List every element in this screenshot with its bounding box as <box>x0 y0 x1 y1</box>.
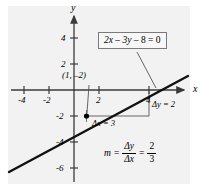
point-leader-line <box>87 85 89 113</box>
graph-figure: x y -4 -2 2 4 4 2 -2 -4 -6 2x – 3y – 8 =… <box>0 0 206 191</box>
slope-fraction-value: 2 3 <box>147 142 156 165</box>
x-tick-label-4: 4 <box>146 96 151 105</box>
equation-operator-2: – <box>134 35 139 45</box>
y-tick-label-4: 4 <box>61 34 66 43</box>
slope-value-numerator: 2 <box>147 142 156 152</box>
delta-y-label: Δy = 2 <box>152 100 175 109</box>
x-tick-label-2: 2 <box>96 96 101 105</box>
y-axis-label: y <box>71 3 75 13</box>
y-tick-label--6: -6 <box>56 164 64 173</box>
equation-term-3: 8 <box>141 35 146 45</box>
x-axis-label: x <box>193 84 197 94</box>
x-tick-label--2: -2 <box>43 96 51 105</box>
slope-denominator-delta-x: Δx <box>122 155 136 165</box>
y-tick-label-2: 2 <box>61 60 66 69</box>
equation-operator-1: – <box>115 35 120 45</box>
slope-equals-1: = <box>114 148 119 158</box>
equation-callout: 2x – 3y – 8 = 0 <box>98 32 167 49</box>
coordinate-plane-svg <box>0 0 206 191</box>
delta-x-label: Δx = 3 <box>92 119 115 128</box>
y-tick-label--2: -2 <box>56 112 64 121</box>
equation-leader-line <box>137 52 156 88</box>
point-label: (1, –2) <box>62 71 86 80</box>
y-tick-label--4: -4 <box>56 138 64 147</box>
equation-term-2: 3y <box>122 35 131 45</box>
equation-term-1: 2x <box>104 35 113 45</box>
x-tick-label--4: -4 <box>18 96 26 105</box>
slope-value-denominator: 3 <box>147 155 156 165</box>
slope-numerator-delta-y: Δy <box>122 142 136 152</box>
equation-operator-3: = <box>148 35 153 45</box>
equation-rhs: 0 <box>156 35 161 45</box>
slope-symbol: m <box>104 148 111 158</box>
point-marker <box>84 113 89 118</box>
slope-fraction-delta: Δy Δx <box>122 142 136 165</box>
slope-equals-2: = <box>139 148 144 158</box>
slope-formula: m = Δy Δx = 2 3 <box>104 142 156 165</box>
